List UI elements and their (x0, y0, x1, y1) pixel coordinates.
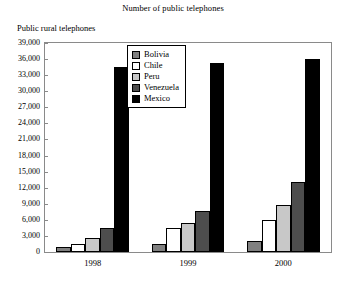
y-tick-label: 15,000 (0, 168, 40, 176)
legend-item: Peru (132, 71, 179, 82)
bar (85, 238, 100, 252)
legend-label: Bolivia (144, 49, 169, 60)
legend-item: Chile (132, 60, 179, 71)
x-tick-label: 2000 (253, 258, 313, 269)
bar (181, 223, 196, 252)
legend-swatch-icon (132, 84, 140, 92)
bar (305, 59, 320, 252)
bar (166, 228, 181, 252)
legend-swatch-icon (132, 51, 140, 59)
bar (152, 244, 167, 252)
y-tick-label: 18,000 (0, 152, 40, 160)
y-tick-label: 33,000 (0, 71, 40, 79)
bar (262, 220, 277, 252)
y-tick-label: 30,000 (0, 87, 40, 95)
y-tick-label: 3,000 (0, 232, 40, 240)
x-tick-label: 1999 (158, 258, 218, 269)
x-tick-label: 1998 (63, 258, 123, 269)
y-axis-label: Public rural telephones (17, 23, 95, 34)
y-tick-label: 0 (0, 248, 40, 256)
bar-chart: Number of public telephones Public rural… (0, 0, 346, 290)
legend-label: Venezuela (144, 82, 179, 93)
legend-label: Peru (144, 71, 160, 82)
bar (71, 244, 86, 252)
legend-swatch-icon (132, 62, 140, 70)
bar (195, 211, 210, 252)
legend-label: Chile (144, 60, 162, 71)
chart-title: Number of public telephones (0, 3, 346, 14)
legend-swatch-icon (132, 95, 140, 103)
legend-item: Bolivia (132, 49, 179, 60)
y-tick-label: 12,000 (0, 184, 40, 192)
y-tick-label: 21,000 (0, 135, 40, 143)
legend-item: Venezuela (132, 82, 179, 93)
bar (100, 228, 115, 252)
bar (291, 182, 306, 252)
bar (210, 63, 225, 252)
bar (276, 205, 291, 252)
y-tick-label: 39,000 (0, 39, 40, 47)
bar (247, 241, 262, 252)
bar (56, 247, 71, 252)
y-tick-label: 24,000 (0, 119, 40, 127)
y-tick-label: 6,000 (0, 216, 40, 224)
legend-label: Mexico (144, 93, 170, 104)
bar-series-layer (45, 43, 331, 252)
legend-item: Mexico (132, 93, 179, 104)
legend-swatch-icon (132, 73, 140, 81)
y-tick-label: 36,000 (0, 55, 40, 63)
y-tick-label: 9,000 (0, 200, 40, 208)
chart-legend: BoliviaChilePeruVenezuelaMexico (127, 45, 186, 108)
y-tick-mark (44, 252, 48, 253)
y-tick-label: 27,000 (0, 103, 40, 111)
